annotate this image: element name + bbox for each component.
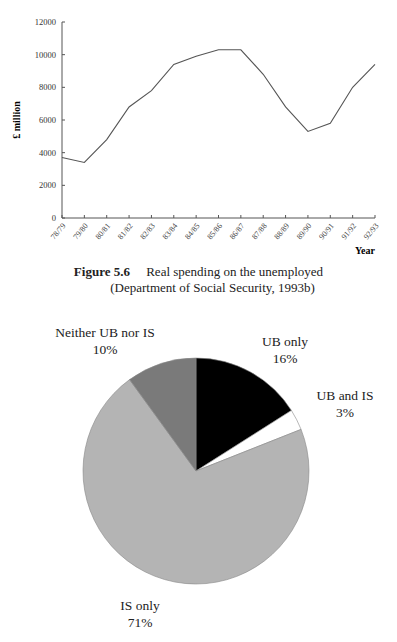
label-neither-text: Neither UB nor IS [40,324,170,341]
label-ub-and-is-text: UB and IS [300,387,390,404]
label-ub-only: UB only 16% [245,333,325,367]
label-neither-pct: 10% [40,341,170,358]
label-neither: Neither UB nor IS 10% [40,324,170,358]
label-ub-and-is: UB and IS 3% [300,387,390,421]
label-is-only: IS only 71% [105,597,175,631]
pie-chart [0,0,397,642]
label-ub-only-text: UB only [245,333,325,350]
label-ub-and-is-pct: 3% [300,404,390,421]
label-is-only-pct: 71% [105,614,175,631]
label-is-only-text: IS only [105,597,175,614]
pie-slices [83,358,309,584]
label-ub-only-pct: 16% [245,350,325,367]
